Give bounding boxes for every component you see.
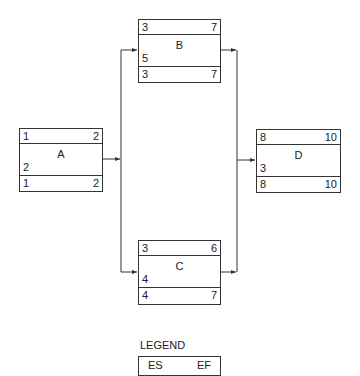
node-c-ls: 4 — [142, 288, 148, 302]
node-d-early-row: 8 10 — [257, 130, 340, 145]
node-a-name: A — [20, 147, 102, 161]
node-d-ls: 8 — [260, 177, 266, 191]
node-b-ef: 7 — [211, 20, 217, 34]
node-a-duration: 2 — [23, 160, 29, 174]
node-c-late-row: 4 7 — [139, 288, 220, 303]
node-a-lf: 2 — [93, 176, 99, 190]
node-c-early-row: 3 6 — [139, 241, 220, 256]
node-b: 3 7 B 5 3 7 — [138, 19, 221, 83]
node-b-name: B — [139, 38, 220, 52]
node-b-early-row: 3 7 — [139, 20, 220, 35]
node-b-ls: 3 — [142, 67, 148, 81]
node-a-ef: 2 — [93, 129, 99, 143]
node-a-body: A 2 — [20, 144, 102, 176]
node-d-late-row: 8 10 — [257, 177, 340, 192]
node-d: 8 10 D 3 8 10 — [256, 129, 341, 193]
node-c: 3 6 C 4 4 7 — [138, 240, 221, 305]
node-a-ls: 1 — [23, 176, 29, 190]
node-a-early-row: 1 2 — [20, 129, 102, 144]
node-c-lf: 7 — [211, 288, 217, 302]
node-d-lf: 10 — [325, 177, 337, 191]
node-a: 1 2 A 2 1 2 — [19, 128, 103, 192]
node-d-es: 8 — [260, 130, 266, 144]
node-a-es: 1 — [23, 129, 29, 143]
node-c-ef: 6 — [211, 241, 217, 255]
node-a-late-row: 1 2 — [20, 176, 102, 191]
node-d-name: D — [257, 148, 340, 162]
node-b-lf: 7 — [211, 67, 217, 81]
node-b-body: B 5 — [139, 35, 220, 67]
node-d-duration: 3 — [260, 161, 266, 175]
node-b-es: 3 — [142, 20, 148, 34]
legend-es-label: ES — [148, 359, 163, 371]
node-c-es: 3 — [142, 241, 148, 255]
node-d-body: D 3 — [257, 145, 340, 177]
legend-title: LEGEND — [140, 339, 185, 351]
node-c-body: C 4 — [139, 256, 220, 288]
legend-ef-label: EF — [197, 359, 211, 371]
node-b-late-row: 3 7 — [139, 67, 220, 82]
legend-box: ES EF — [138, 356, 221, 376]
node-b-duration: 5 — [142, 51, 148, 65]
node-c-duration: 4 — [142, 272, 148, 286]
node-d-ef: 10 — [325, 130, 337, 144]
node-c-name: C — [139, 259, 220, 273]
